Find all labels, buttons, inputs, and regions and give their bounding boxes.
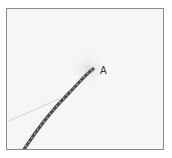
wire-illustration — [7, 9, 164, 150]
image-frame: A — [6, 8, 164, 150]
point-label: A — [100, 66, 107, 76]
